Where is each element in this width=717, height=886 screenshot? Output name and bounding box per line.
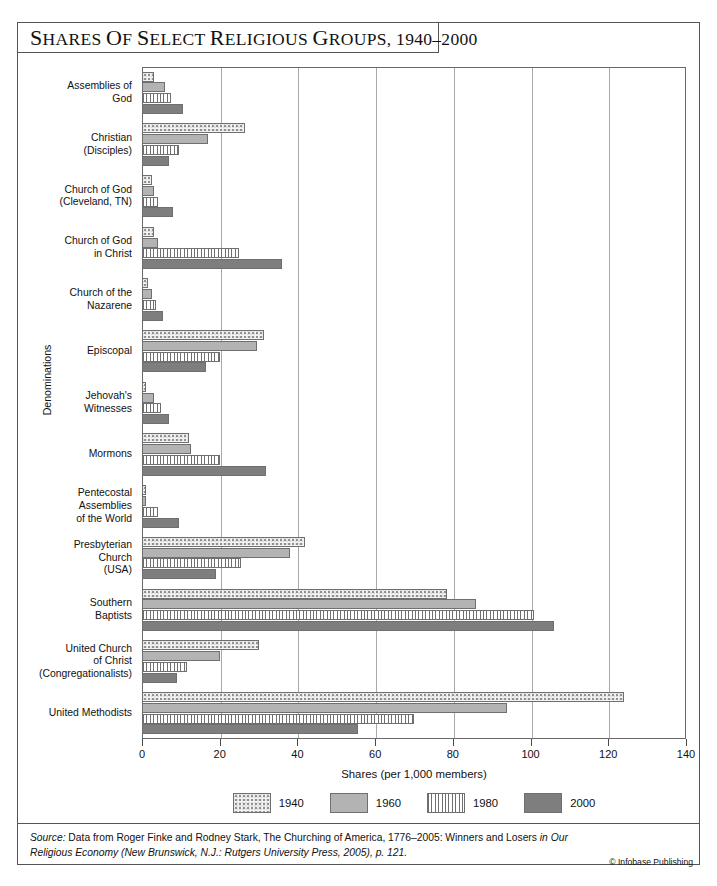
bar — [142, 673, 177, 683]
x-tick-label: 120 — [599, 748, 617, 760]
bar — [142, 238, 158, 248]
bar — [142, 341, 257, 351]
bar — [142, 72, 154, 82]
x-tick-label: 0 — [139, 748, 145, 760]
bar-group — [142, 175, 686, 217]
x-axis-tick-labels: 020406080100120140 — [0, 748, 717, 764]
source-divider — [18, 823, 699, 824]
bar — [142, 352, 220, 362]
category-label: Christian(Disciples) — [0, 132, 132, 157]
bar-group — [142, 692, 686, 734]
category-label: Mormons — [0, 448, 132, 461]
category-label: SouthernBaptists — [0, 597, 132, 622]
bar-group — [142, 485, 686, 527]
bar-group — [142, 72, 686, 114]
category-label: United Methodists — [0, 707, 132, 720]
x-tick-label: 60 — [369, 748, 381, 760]
bar-group — [142, 278, 686, 320]
bar — [142, 518, 179, 528]
bar — [142, 134, 208, 144]
bar — [142, 610, 534, 620]
source-note: Source: Data from Roger Finke and Rodney… — [30, 831, 590, 860]
bar — [142, 558, 241, 568]
source-line-1-text: Data from Roger Finke and Rodney Stark, … — [66, 832, 537, 843]
x-tick-label: 40 — [291, 748, 303, 760]
page-title: SHARES OF SELECT RELIGIOUS GROUPS, 1940–… — [18, 25, 478, 51]
legend-swatch — [427, 793, 465, 813]
legend-label: 2000 — [570, 797, 595, 809]
x-tick — [686, 739, 687, 746]
bar — [142, 496, 146, 506]
bar — [142, 433, 189, 443]
bar — [142, 93, 171, 103]
x-tick — [531, 739, 532, 746]
title-box: SHARES OF SELECT RELIGIOUS GROUPS, 1940–… — [17, 22, 439, 53]
bar — [142, 507, 158, 517]
bar — [142, 82, 165, 92]
bar — [142, 589, 447, 599]
bar — [142, 197, 158, 207]
bar-group — [142, 589, 686, 631]
category-label: Assemblies ofGod — [0, 80, 132, 105]
category-labels: Assemblies ofGodChristian(Disciples)Chur… — [0, 67, 140, 739]
chart-page: SHARES OF SELECT RELIGIOUS GROUPS, 1940–… — [0, 0, 717, 886]
bar — [142, 207, 173, 217]
category-label: Episcopal — [0, 345, 132, 358]
bar — [142, 123, 245, 133]
bar — [142, 444, 191, 454]
x-tick-label: 100 — [521, 748, 539, 760]
x-tick — [220, 739, 221, 746]
source-line-1: Source: Data from Roger Finke and Rodney… — [30, 832, 537, 843]
bar — [142, 692, 624, 702]
category-label: Church of theNazarene — [0, 287, 132, 312]
bar — [142, 662, 187, 672]
bar — [142, 414, 169, 424]
legend-swatch — [524, 793, 562, 813]
legend-label: 1940 — [279, 797, 304, 809]
bar — [142, 651, 220, 661]
x-tick — [297, 739, 298, 746]
legend-swatch — [330, 793, 368, 813]
bar — [142, 455, 220, 465]
bar — [142, 104, 183, 114]
category-label: Church of God(Cleveland, TN) — [0, 184, 132, 209]
x-axis-title: Shares (per 1,000 members) — [142, 768, 686, 780]
legend: 1940196019802000 — [142, 790, 686, 816]
category-label: Jehovah'sWitnesses — [0, 390, 132, 415]
legend-label: 1960 — [376, 797, 401, 809]
bar — [142, 724, 358, 734]
bar — [142, 382, 146, 392]
x-tick-label: 20 — [214, 748, 226, 760]
publisher-credit: © Infobase Publishing — [609, 857, 693, 867]
bar-group — [142, 382, 686, 424]
bar — [142, 466, 266, 476]
bar — [142, 311, 163, 321]
bar — [142, 330, 264, 340]
legend-label: 1980 — [473, 797, 498, 809]
bar — [142, 145, 179, 155]
bar — [142, 569, 216, 579]
category-label: Church of Godin Christ — [0, 235, 132, 260]
bar — [142, 156, 169, 166]
bar — [142, 175, 152, 185]
bar — [142, 714, 414, 724]
bar — [142, 227, 154, 237]
bar — [142, 186, 154, 196]
bar-group — [142, 123, 686, 165]
source-label: Source: — [30, 832, 66, 843]
bar-group — [142, 330, 686, 372]
bar — [142, 599, 476, 609]
bar — [142, 537, 305, 547]
bar — [142, 259, 282, 269]
category-label: PresbyterianChurch(USA) — [0, 539, 132, 577]
bar — [142, 485, 146, 495]
bar — [142, 640, 259, 650]
legend-item: 1940 — [233, 793, 304, 813]
bar-group — [142, 537, 686, 579]
legend-item: 1980 — [427, 793, 498, 813]
x-tick — [142, 739, 143, 746]
bars-layer — [142, 67, 686, 739]
legend-item: 2000 — [524, 793, 595, 813]
bar-group — [142, 227, 686, 269]
x-tick — [453, 739, 454, 746]
